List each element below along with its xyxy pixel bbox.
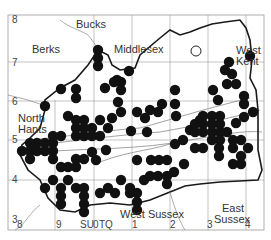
record-dot — [71, 93, 81, 103]
record-dot — [248, 107, 258, 117]
record-dot — [95, 115, 105, 125]
record-dot — [198, 127, 208, 137]
record-dot — [93, 61, 103, 71]
record-dot — [63, 175, 73, 185]
record-dot — [243, 143, 253, 153]
record-dot — [236, 159, 246, 169]
y-tick-label: 4 — [12, 175, 18, 185]
record-dot — [48, 175, 58, 185]
record-dot — [116, 107, 126, 117]
record-dot — [91, 155, 101, 165]
record-dot — [79, 154, 89, 164]
x-tick-label: 0 — [93, 220, 99, 230]
record-dot — [213, 95, 223, 105]
region-label: Kent — [236, 56, 259, 67]
record-dot — [48, 154, 58, 164]
record-dot — [142, 127, 152, 137]
record-dot — [222, 79, 232, 89]
y-tick-label: 6 — [12, 97, 18, 107]
y-tick-label: 8 — [12, 15, 18, 25]
record-dot — [132, 155, 142, 165]
region-label: Bucks — [76, 19, 106, 30]
record-dot — [170, 99, 180, 109]
record-dot — [95, 131, 105, 141]
x-tick-label: 3 — [207, 220, 213, 230]
record-dot — [103, 183, 113, 193]
record-dot — [109, 77, 119, 87]
x-tick-label: 8 — [17, 220, 23, 230]
record-dot — [208, 85, 218, 95]
x-tick-label: 2 — [170, 220, 176, 230]
record-dot — [107, 113, 117, 123]
record-dot — [125, 183, 135, 193]
x-tick-label: TQ — [99, 220, 113, 230]
region-label: Hants — [18, 124, 47, 135]
record-dot — [179, 159, 189, 169]
record-dot — [124, 66, 134, 76]
open-circle-marker — [191, 46, 201, 56]
record-dot — [100, 83, 110, 93]
record-dot — [140, 113, 150, 123]
record-dot — [116, 175, 126, 185]
y-tick-label: 5 — [12, 135, 18, 145]
y-tick-label: 7 — [12, 58, 18, 68]
record-dot — [220, 65, 230, 75]
record-dot — [25, 154, 35, 164]
record-dot — [56, 199, 66, 209]
record-dot — [153, 107, 163, 117]
record-dot — [239, 99, 249, 109]
record-dot — [228, 143, 238, 153]
record-dot — [195, 115, 205, 125]
record-dot — [153, 171, 163, 181]
record-dot — [116, 85, 126, 95]
record-dot — [40, 183, 50, 193]
record-dot — [236, 135, 246, 145]
record-dot — [190, 143, 200, 153]
region-label: Middlesex — [114, 44, 164, 55]
x-tick-label: SU — [80, 220, 94, 230]
record-dot — [113, 97, 123, 107]
x-tick-label: 1 — [132, 220, 138, 230]
record-dot — [207, 135, 217, 145]
x-tick-label: 4 — [245, 220, 251, 230]
x-tick-label: 9 — [56, 220, 62, 230]
record-dot — [17, 146, 27, 156]
record-dot — [126, 126, 136, 136]
record-dot — [231, 79, 241, 89]
record-dot — [101, 145, 111, 155]
record-dot — [214, 151, 224, 161]
record-dot — [103, 123, 113, 133]
record-dot — [162, 179, 172, 189]
record-dot — [169, 167, 179, 177]
record-dot — [170, 85, 180, 95]
record-dot — [171, 111, 181, 121]
record-dot — [56, 84, 66, 94]
record-dot — [162, 155, 172, 165]
record-dot — [231, 118, 241, 128]
record-dot — [40, 101, 50, 111]
record-dot — [79, 207, 89, 217]
record-dot — [71, 84, 81, 94]
region-label: Berks — [32, 44, 60, 55]
record-dot — [178, 135, 188, 145]
